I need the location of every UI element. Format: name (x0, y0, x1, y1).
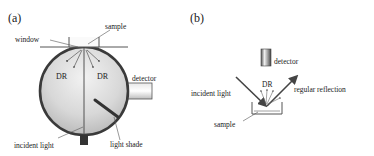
sample-holder-icon (69, 37, 99, 47)
detector-label: detector (132, 74, 157, 83)
dr-label-b: DR (262, 80, 272, 89)
diffuse-reflection-diagram: (a) sample window (0, 0, 374, 156)
incident-light-label: incident light (14, 141, 55, 150)
sample-label-b: sample (214, 120, 236, 129)
incident-light-label-b: incident light (191, 89, 232, 98)
panel-b: (b) detector DR incident light regular r… (190, 11, 346, 129)
regular-reflection-label: regular reflection (294, 85, 346, 94)
panel-a: (a) sample window (8, 11, 157, 150)
panel-b-tag: (b) (190, 11, 204, 25)
dr-left-label: DR (56, 72, 68, 81)
detector-icon (261, 49, 271, 66)
window-label: window (15, 35, 40, 44)
incident-light-beam (236, 77, 265, 105)
panel-a-tag: (a) (8, 11, 21, 25)
detector-label-b: detector (274, 57, 299, 66)
sample-leader-b (243, 112, 258, 121)
sample-label: sample (105, 22, 127, 31)
dr-right-label: DR (97, 72, 109, 81)
entrance-port (80, 135, 88, 145)
light-shade-label: light shade (110, 140, 143, 149)
